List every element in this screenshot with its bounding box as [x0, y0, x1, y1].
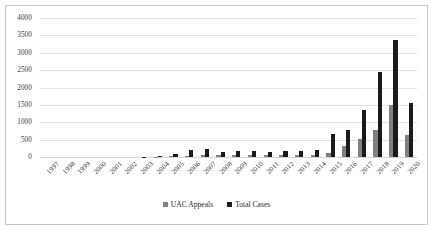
y-tick-label: 500: [21, 136, 32, 144]
y-tick-label: 0: [28, 153, 32, 161]
bar-group: [291, 18, 307, 157]
legend-entry: Total Cases: [227, 200, 270, 209]
x-tick: 2009: [228, 158, 244, 200]
bar-group: [119, 18, 135, 157]
bar: [283, 151, 287, 157]
y-tick-label: 1000: [17, 118, 32, 126]
x-tick: 2011: [260, 158, 276, 200]
x-tick: 2019: [385, 158, 401, 200]
bar: [189, 150, 193, 157]
bar: [378, 72, 382, 157]
x-axis: 1997199819992000200120022003200420052006…: [40, 158, 417, 200]
bar-group: [213, 18, 229, 157]
bar-group: [370, 18, 386, 157]
x-tick: 2016: [338, 158, 354, 200]
bar-group: [150, 18, 166, 157]
x-tick: 2015: [323, 158, 339, 200]
x-tick: 2017: [354, 158, 370, 200]
x-tick: 2008: [213, 158, 229, 200]
bars-layer: [40, 18, 417, 157]
x-tick: 1999: [71, 158, 87, 200]
bar-group: [197, 18, 213, 157]
legend-label: UAC Appeals: [171, 200, 213, 209]
x-tick: 2018: [370, 158, 386, 200]
bar-group: [71, 18, 87, 157]
x-tick: 2000: [87, 158, 103, 200]
bar: [299, 151, 303, 157]
x-tick: 2002: [119, 158, 135, 200]
y-tick-label: 3000: [17, 49, 32, 57]
bar-group: [134, 18, 150, 157]
legend-label: Total Cases: [235, 200, 270, 209]
bar: [409, 103, 413, 157]
bar: [252, 151, 256, 157]
x-tick: 2012: [276, 158, 292, 200]
bar: [393, 40, 397, 157]
bar-group: [87, 18, 103, 157]
x-tick: 2013: [291, 158, 307, 200]
x-tick: 2005: [166, 158, 182, 200]
legend-entry: UAC Appeals: [163, 200, 213, 209]
bar-group: [103, 18, 119, 157]
bar-group: [228, 18, 244, 157]
bar: [205, 149, 209, 157]
x-tick: 1998: [56, 158, 72, 200]
bar-group: [323, 18, 339, 157]
y-tick-label: 2000: [17, 84, 32, 92]
plot-area: [40, 18, 417, 157]
legend-swatch: [227, 202, 232, 207]
x-tick-label: 2020: [406, 160, 422, 176]
bar: [221, 152, 225, 157]
bar: [362, 110, 366, 157]
bar-group: [166, 18, 182, 157]
bar: [346, 130, 350, 157]
y-axis: 40003500300025002000150010005000: [0, 18, 36, 157]
bar-group: [276, 18, 292, 157]
bar-group: [338, 18, 354, 157]
bar-chart: 40003500300025002000150010005000 1997199…: [0, 0, 433, 230]
bar-group: [307, 18, 323, 157]
x-tick: 2001: [103, 158, 119, 200]
x-tick: 2020: [401, 158, 417, 200]
bar: [331, 134, 335, 157]
x-tick: 1997: [40, 158, 56, 200]
x-tick: 2004: [150, 158, 166, 200]
y-tick-label: 3500: [17, 31, 32, 39]
bar-group: [385, 18, 401, 157]
bar: [236, 151, 240, 157]
x-tick: 2014: [307, 158, 323, 200]
y-tick-label: 4000: [17, 14, 32, 22]
bar-group: [244, 18, 260, 157]
chart-legend: UAC AppealsTotal Cases: [0, 200, 433, 209]
x-tick: 2003: [134, 158, 150, 200]
legend-swatch: [163, 202, 168, 207]
bar: [173, 154, 177, 157]
bar-group: [56, 18, 72, 157]
x-tick: 2006: [181, 158, 197, 200]
bar: [158, 156, 162, 157]
y-tick-label: 2500: [17, 66, 32, 74]
bar-group: [181, 18, 197, 157]
x-tick: 2007: [197, 158, 213, 200]
bar: [268, 152, 272, 157]
x-tick: 2010: [244, 158, 260, 200]
bar: [315, 150, 319, 157]
y-tick-label: 1500: [17, 101, 32, 109]
bar-group: [40, 18, 56, 157]
bar-group: [354, 18, 370, 157]
bar-group: [260, 18, 276, 157]
bar-group: [401, 18, 417, 157]
